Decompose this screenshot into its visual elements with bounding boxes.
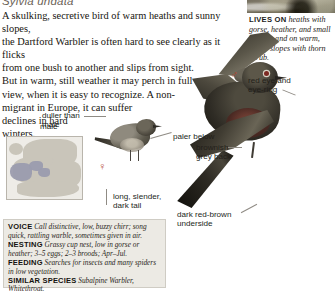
description-line-1: A skulking, secretive bird of warm heath… (2, 9, 234, 35)
female-breast (120, 138, 144, 152)
info-label-feeding: FEEDING (8, 258, 43, 267)
info-row-voice: VOICE Call distinctive, low, buzzy chirr… (8, 223, 161, 240)
annotation-male-caption: male (40, 122, 58, 131)
female-bill (153, 125, 162, 128)
annotation-dark-red-brown-underside: dark red-brown underside (177, 210, 231, 229)
habitat-photo (247, 0, 335, 13)
info-label-nesting: NESTING (8, 240, 43, 249)
leader-brownish-grey-back (228, 147, 242, 148)
annotation-long-slender-dark-tail: long, slender, dark tail (113, 192, 161, 211)
female-leg-right (138, 150, 139, 161)
info-box: VOICE Call distinctive, low, buzzy chirr… (3, 219, 166, 288)
map-land-iceland (9, 143, 23, 155)
info-row-nesting: NESTING Grassy cup nest, low in gorse or… (8, 241, 161, 258)
info-label-voice: VOICE (8, 222, 32, 231)
female-leg-left (130, 150, 131, 161)
map-land-africa (17, 181, 79, 197)
female-symbol: ♀ (98, 160, 106, 172)
annotation-brownish-grey-back: brownish grey back (196, 143, 231, 162)
map-range-italy (38, 168, 50, 177)
annotation-paler-below: paler below (173, 132, 214, 141)
male-leg (251, 142, 255, 158)
field-guide-page: Sylvia undata A skulking, secretive bird… (0, 0, 335, 291)
lives-on-label: LIVES ON (249, 15, 286, 24)
annotation-red-eye: red eye and eye-ring (248, 76, 291, 95)
info-label-similar-species: SIMILAR SPECIES (8, 276, 76, 285)
info-row-feeding: FEEDING Searches for insects and many sp… (8, 259, 161, 276)
distribution-map (6, 136, 83, 200)
info-row-similar-species: SIMILAR SPECIES Subalpine Warbler, White… (8, 277, 161, 291)
leader-long-slender-dark-tail (106, 189, 107, 205)
leader-duller-than-male (84, 116, 106, 117)
illustration-female-perched (96, 112, 168, 168)
species-scientific-name: Sylvia undata (2, 0, 74, 7)
